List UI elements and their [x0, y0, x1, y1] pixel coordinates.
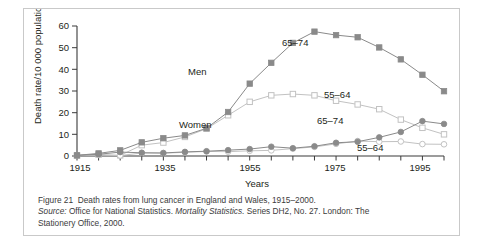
- caption-figure-text: Death rates from lung cancer in England …: [78, 195, 316, 205]
- annotation-women-65-74: 65–74: [317, 115, 343, 126]
- data-point: [420, 141, 426, 147]
- data-point: [398, 139, 404, 145]
- caption-line-2: Source: Office for National Statistics. …: [38, 206, 450, 217]
- data-point: [225, 147, 231, 153]
- data-point: [441, 132, 446, 137]
- data-point: [268, 144, 274, 150]
- data-point: [225, 109, 230, 114]
- data-point: [269, 60, 274, 65]
- x-axis-ticks: [77, 156, 444, 161]
- x-tick-label-1955: 1955: [239, 162, 260, 173]
- data-point: [376, 135, 382, 141]
- data-point: [161, 150, 167, 156]
- data-point: [398, 129, 404, 135]
- lung-cancer-death-rate-line-chart: Death rate/10 000 population 0 10 20 30 …: [24, 9, 461, 191]
- annotation-men-65-74: 65–74: [282, 37, 308, 48]
- data-point: [247, 146, 253, 152]
- y-tick-label-50: 50: [58, 42, 69, 53]
- series-line: [77, 32, 444, 156]
- data-point: [96, 151, 102, 157]
- data-point: [420, 125, 425, 130]
- data-point: [247, 81, 252, 86]
- data-point: [441, 142, 447, 148]
- y-tick-label-20: 20: [58, 107, 69, 118]
- x-axis-tick-labels: 1915 1935 1955 1975 1995: [69, 162, 430, 173]
- data-point: [117, 149, 123, 155]
- series-layer: [74, 29, 447, 158]
- caption-line-3: Stationery Office, 2000.: [38, 218, 450, 229]
- caption-source-label: Source:: [38, 206, 67, 216]
- data-point: [139, 150, 145, 156]
- caption-source-series: Series DH2, No. 27. London: The: [247, 206, 370, 216]
- data-point: [182, 149, 188, 155]
- data-point: [290, 91, 295, 96]
- caption-line-1: Figure 21 Death rates from lung cancer i…: [38, 195, 450, 206]
- data-point: [139, 140, 144, 145]
- y-tick-label-60: 60: [58, 20, 69, 31]
- data-point: [377, 107, 382, 112]
- data-point: [398, 117, 403, 122]
- x-tick-label-1995: 1995: [409, 162, 430, 173]
- caption-figure-label: Figure 21: [38, 195, 73, 205]
- y-axis-ticks: 0 10 20 30 40 50 60: [58, 20, 77, 161]
- x-tick-label-1975: 1975: [324, 162, 345, 173]
- x-tick-label-1915: 1915: [69, 162, 90, 173]
- data-point: [312, 29, 317, 34]
- y-tick-label-40: 40: [58, 64, 69, 75]
- data-point: [441, 121, 447, 127]
- data-point: [290, 145, 296, 151]
- data-point: [355, 102, 360, 107]
- figure-caption: Figure 21 Death rates from lung cancer i…: [38, 195, 450, 229]
- series-women-65-74: [74, 118, 447, 158]
- caption-source-publisher: Stationery Office, 2000.: [38, 218, 125, 228]
- x-axis-title: Years: [245, 178, 269, 189]
- data-point: [161, 136, 166, 141]
- data-point: [377, 45, 382, 50]
- caption-source-title: Mortality Statistics.: [175, 206, 244, 216]
- data-point: [441, 89, 446, 94]
- data-point: [333, 140, 339, 146]
- x-tick-label-1935: 1935: [154, 162, 175, 173]
- y-tick-label-0: 0: [64, 150, 69, 161]
- data-point: [247, 99, 252, 104]
- y-tick-label-30: 30: [58, 85, 69, 96]
- data-point: [312, 143, 318, 149]
- data-point: [355, 35, 360, 40]
- y-axis-title: Death rate/10 000 population: [32, 9, 43, 124]
- data-point: [420, 72, 425, 77]
- data-point: [420, 118, 426, 124]
- caption-source-org: Office for National Statistics.: [69, 206, 173, 216]
- chart-plot-area: Death rate/10 000 population 0 10 20 30 …: [24, 9, 461, 191]
- annotation-men: Men: [188, 66, 206, 77]
- data-point: [312, 93, 317, 98]
- data-point: [269, 93, 274, 98]
- data-point: [74, 153, 80, 159]
- data-point: [398, 57, 403, 62]
- annotation-women: Women: [179, 119, 212, 130]
- data-point: [333, 32, 338, 37]
- annotation-men-55-64: 55–64: [324, 89, 350, 100]
- data-point: [182, 133, 187, 138]
- data-point: [204, 148, 210, 154]
- y-tick-label-10: 10: [58, 129, 69, 140]
- figure-frame: Death rate/10 000 population 0 10 20 30 …: [23, 8, 460, 236]
- series-men-65-74: [74, 29, 446, 158]
- annotation-women-55-64: 55–64: [357, 142, 383, 153]
